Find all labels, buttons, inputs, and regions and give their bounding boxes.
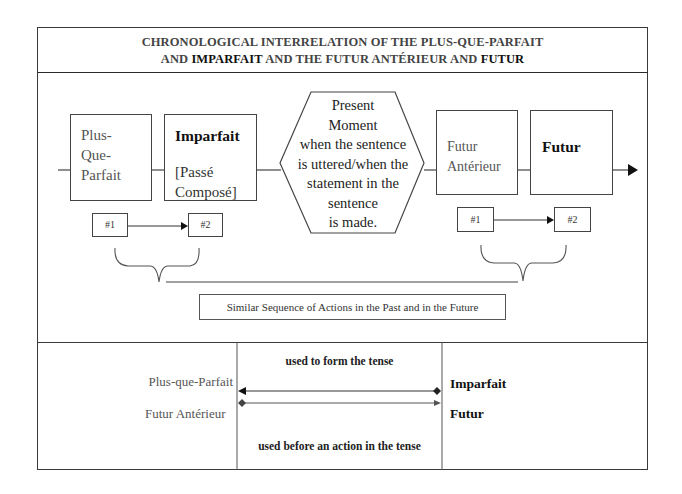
relation-right-row1: Imparfait xyxy=(450,376,506,392)
text-line: Antérieur xyxy=(447,157,501,177)
tense-label: Futur Antérieur xyxy=(447,137,501,177)
relation-left-row1: Plus-que-Parfait xyxy=(149,374,233,390)
seq-box-future-1: #1 xyxy=(457,207,494,232)
tense-title: Imparfait xyxy=(175,126,240,146)
text-line: Moment xyxy=(284,116,422,136)
text-line: Que- xyxy=(81,145,121,165)
similar-sequence-caption: Similar Sequence of Actions in the Past … xyxy=(199,294,506,320)
tense-box-futur: Futur xyxy=(530,110,613,195)
tense-title: Futur xyxy=(542,137,581,157)
relation-left-row2: Futur Antérieur xyxy=(145,406,226,422)
text-line: sentence xyxy=(284,194,422,214)
diagram-lines xyxy=(0,0,682,494)
text-line: when the sentence xyxy=(284,135,422,155)
tense-box-futur-anterieur: Futur Antérieur xyxy=(436,110,518,195)
text-line: statement in the xyxy=(284,174,422,194)
tense-sublabel: [Passé Composé] xyxy=(175,162,237,202)
tense-box-plus-que-parfait: Plus- Que- Parfait xyxy=(70,114,152,201)
relation-right-row2: Futur xyxy=(450,406,484,422)
text-line: Plus- xyxy=(81,125,121,145)
relation-top-caption: used to form the tense xyxy=(237,355,442,367)
present-moment-text: Present Moment when the sentence is utte… xyxy=(284,96,422,233)
text-line: Futur xyxy=(447,137,501,157)
text-line: Parfait xyxy=(81,165,121,185)
tense-label: Plus- Que- Parfait xyxy=(81,125,121,185)
relation-bottom-caption: used before an action in the tense xyxy=(237,440,442,452)
seq-box-future-2: #2 xyxy=(554,207,591,232)
text-line: is made. xyxy=(284,213,422,233)
tense-box-imparfait: Imparfait [Passé Composé] xyxy=(164,114,257,201)
seq-box-past-1: #1 xyxy=(92,213,128,237)
text-line: [Passé xyxy=(175,162,237,182)
text-line: is uttered/when the xyxy=(284,155,422,175)
text-line: Composé] xyxy=(175,182,237,202)
seq-box-past-2: #2 xyxy=(188,213,223,237)
text-line: Present xyxy=(284,96,422,116)
